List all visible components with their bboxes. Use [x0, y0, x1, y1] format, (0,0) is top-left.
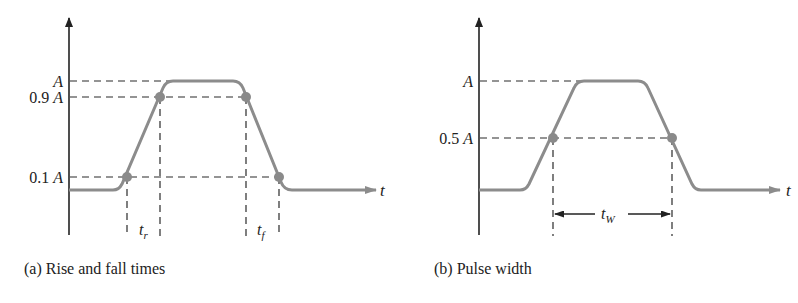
caption-a: (a) Rise and fall times: [24, 260, 165, 278]
pulse-waveform: [479, 81, 780, 190]
marker-rise-10: [122, 172, 132, 182]
caption-b: (b) Pulse width: [434, 260, 532, 278]
fall-time-label: tf: [257, 221, 266, 241]
marker-rise-50: [548, 133, 558, 143]
label-A: A: [462, 73, 473, 90]
rise-time-label: tr: [139, 221, 148, 241]
marker-fall-90: [241, 92, 251, 102]
marker-fall-10: [274, 172, 284, 182]
label-0.9A: 0.9 A: [29, 89, 63, 106]
pulse-waveform: [69, 81, 376, 190]
x-axis-label-t: t: [380, 181, 386, 200]
pulse-timing-diagram: A 0.9 A 0.1 A t tr tf (a) Rise and fall …: [0, 0, 798, 303]
label-A: A: [52, 73, 63, 90]
panel-b-pulse-width: A 0.5 A t tW (b) Pulse width: [434, 18, 792, 278]
marker-fall-50: [667, 133, 677, 143]
label-0.5A: 0.5 A: [439, 130, 473, 147]
reference-dashes: [70, 81, 279, 236]
x-axis-label-t: t: [786, 181, 792, 200]
marker-rise-90: [155, 92, 165, 102]
label-0.1A: 0.1 A: [29, 169, 63, 186]
reference-dashes: [480, 81, 672, 236]
pulse-width-label: tW: [601, 205, 615, 225]
panel-a-rise-fall: A 0.9 A 0.1 A t tr tf (a) Rise and fall …: [24, 18, 386, 278]
